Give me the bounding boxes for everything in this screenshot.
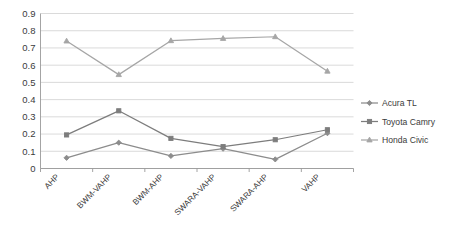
x-tick-label: SWARA-VAHP: [173, 172, 218, 217]
y-tick-label: 0.3: [22, 111, 35, 122]
x-axis-tick-labels: AHPBWM-VAHPBWM-AHPSWARA-VAHPSWARA-AHPVAH…: [43, 172, 322, 217]
y-tick-label: 0: [30, 163, 35, 174]
data-point: [168, 153, 173, 158]
legend-label: Acura TL: [382, 98, 417, 108]
legend-item-acura-tl[interactable]: Acura TL: [361, 98, 417, 108]
data-point: [273, 157, 278, 162]
x-tick-label: SWARA-AHP: [228, 172, 270, 214]
data-point: [325, 128, 329, 132]
data-point: [64, 155, 69, 160]
series-line: [67, 37, 328, 75]
data-point: [64, 38, 69, 43]
gridlines: [41, 14, 354, 169]
legend-marker-icon: [367, 119, 371, 123]
y-tick-label: 0.2: [22, 128, 35, 139]
y-tick-label: 0.1: [22, 146, 35, 157]
x-tick-label: AHP: [43, 172, 62, 191]
y-tick-label: 0.8: [22, 25, 35, 36]
series-honda-civic: [64, 34, 330, 77]
series-toyota-camry: [64, 109, 329, 149]
legend-marker-icon: [367, 100, 372, 105]
legend-item-honda-civic[interactable]: Honda Civic: [361, 135, 429, 145]
x-tick-label: VAHP: [300, 172, 322, 194]
data-point: [221, 145, 225, 149]
legend-label: Toyota Camry: [382, 117, 436, 127]
x-tick-label: BWM-VAHP: [75, 172, 113, 210]
x-axis-tickmarks: [41, 169, 354, 173]
data-point: [64, 133, 68, 137]
y-tick-label: 0.6: [22, 60, 35, 71]
y-tick-label: 0.7: [22, 42, 35, 53]
y-tick-label: 0.5: [22, 77, 35, 88]
y-tick-label: 0.4: [22, 94, 35, 105]
line-chart: 0.90.80.70.60.50.40.30.20.10 AHPBWM-VAHP…: [0, 0, 455, 239]
data-point: [325, 68, 330, 73]
legend-item-toyota-camry[interactable]: Toyota Camry: [361, 117, 436, 127]
y-axis-tick-labels: 0.90.80.70.60.50.40.30.20.10: [22, 8, 35, 174]
data-point: [273, 138, 277, 142]
axis-lines: [41, 14, 354, 169]
legend-label: Honda Civic: [382, 135, 429, 145]
series-acura-tl: [64, 131, 330, 162]
data-point: [116, 140, 121, 145]
chart-legend: Acura TLToyota CamryHonda Civic: [361, 98, 436, 145]
data-point: [117, 109, 121, 113]
data-point: [169, 136, 173, 140]
series-line: [67, 111, 328, 147]
x-tick-label: BWM-AHP: [131, 172, 166, 207]
y-tick-label: 0.9: [22, 8, 35, 19]
chart-canvas: 0.90.80.70.60.50.40.30.20.10 AHPBWM-VAHP…: [0, 0, 455, 239]
data-series: [64, 34, 330, 162]
